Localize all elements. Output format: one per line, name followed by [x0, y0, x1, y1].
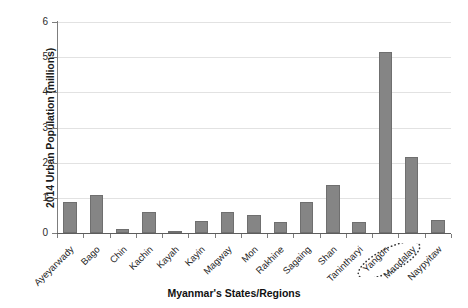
x-axis-tick-mark [398, 234, 399, 238]
bar [405, 157, 419, 233]
x-axis-tick-mark [110, 234, 111, 238]
y-axis-tick-label: 6 [30, 17, 48, 27]
bar [247, 215, 261, 233]
y-axis-tick-label: 2 [30, 158, 48, 168]
bar [326, 185, 340, 233]
y-axis-tick-label: 3 [30, 123, 48, 133]
x-axis-tick-mark [241, 234, 242, 238]
x-axis-line [57, 233, 451, 234]
bar [431, 220, 445, 233]
x-axis-title: Myanmar's States/Regions [0, 287, 468, 299]
x-axis-tick-mark [451, 234, 452, 238]
bar [274, 222, 288, 233]
x-axis-tick-mark [267, 234, 268, 238]
x-axis-tick-mark [188, 234, 189, 238]
x-axis-tick-mark [346, 234, 347, 238]
x-axis-tick-mark [57, 234, 58, 238]
bar [352, 222, 366, 233]
bars-layer [57, 22, 451, 233]
x-axis-tick-mark [215, 234, 216, 238]
bar [300, 202, 314, 233]
bar [116, 229, 130, 233]
x-axis-tick-mark [293, 234, 294, 238]
y-axis-tick-label: 4 [30, 87, 48, 97]
bar [195, 221, 209, 233]
bar [379, 52, 393, 233]
y-axis-tick-label: 0 [30, 228, 48, 238]
x-axis-tick-mark [162, 234, 163, 238]
bar [142, 212, 156, 233]
bar-chart-figure: 2014 Urban Population (millions) 0123456… [0, 0, 468, 308]
bar [63, 202, 77, 233]
x-axis-tick-mark [83, 234, 84, 238]
x-axis-tick-mark [320, 234, 321, 238]
y-axis-tick-label: 5 [30, 52, 48, 62]
y-axis-tick-label: 1 [30, 193, 48, 203]
bar [90, 195, 104, 233]
x-axis-tick-mark [136, 234, 137, 238]
x-axis-tick-mark [372, 234, 373, 238]
bar [221, 212, 235, 233]
x-axis-tick-mark [425, 234, 426, 238]
bar [168, 231, 182, 233]
